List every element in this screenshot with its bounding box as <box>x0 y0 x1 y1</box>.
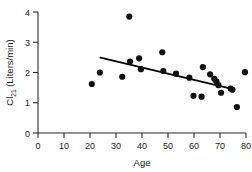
x-axis-group: 0 10 20 30 40 50 60 70 80 Age <box>35 133 251 168</box>
x-tick-label-50: 50 <box>163 141 173 151</box>
plot-canvas: 4 3 2 1 0 Cl21 (Liters/min) <box>0 0 252 172</box>
data-point <box>159 49 165 55</box>
y-tick-label-1: 1 <box>25 98 30 108</box>
y-tick-label-3: 3 <box>25 38 30 48</box>
data-points-group <box>89 13 248 110</box>
x-tick-label-80: 80 <box>241 141 251 151</box>
x-tick-label-30: 30 <box>111 141 121 151</box>
x-axis-ticks <box>38 133 246 138</box>
y-tick-label-4: 4 <box>25 8 30 18</box>
data-point <box>242 69 248 75</box>
data-point <box>127 59 133 65</box>
y-axis-title-main: Cl <box>4 97 15 106</box>
y-axis-title: Cl21 (Liters/min) <box>4 39 17 105</box>
data-point <box>97 69 103 75</box>
y-axis-title-units-text: (Liters/min) <box>4 39 15 87</box>
y-axis-ticks <box>33 12 38 133</box>
x-axis-title: Age <box>134 157 151 168</box>
y-tick-label-0: 0 <box>25 129 30 139</box>
x-tick-label-70: 70 <box>215 141 225 151</box>
data-point <box>119 74 125 80</box>
scatter-plot-figure: 4 3 2 1 0 Cl21 (Liters/min) <box>0 0 252 172</box>
x-axis-tick-labels: 0 10 20 30 40 50 60 70 80 <box>35 141 251 151</box>
x-tick-label-20: 20 <box>85 141 95 151</box>
y-axis-group: 4 3 2 1 0 Cl21 (Liters/min) <box>4 8 38 139</box>
data-point <box>136 55 142 61</box>
data-point <box>198 94 204 100</box>
data-point <box>89 81 95 87</box>
data-point <box>229 87 235 93</box>
data-point <box>186 75 192 81</box>
x-tick-label-0: 0 <box>35 141 40 151</box>
data-point <box>215 82 221 88</box>
data-point <box>173 71 179 77</box>
x-tick-label-60: 60 <box>189 141 199 151</box>
data-point <box>218 90 224 96</box>
y-tick-label-2: 2 <box>25 68 30 78</box>
y-axis-tick-labels: 4 3 2 1 0 <box>25 8 30 139</box>
x-tick-label-40: 40 <box>137 141 147 151</box>
data-point <box>200 64 206 70</box>
data-point <box>138 66 144 72</box>
x-tick-label-10: 10 <box>59 141 69 151</box>
data-point <box>160 68 166 74</box>
y-axis-title-group: Cl21 (Liters/min) <box>4 39 17 105</box>
data-point <box>234 104 240 110</box>
data-point <box>126 13 132 19</box>
data-point <box>190 93 196 99</box>
